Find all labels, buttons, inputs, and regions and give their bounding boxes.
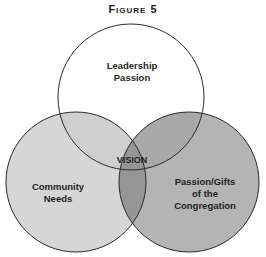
label-gifts-line2: of the <box>192 188 218 199</box>
venn-diagram: Leadership Passion Community Needs Passi… <box>0 0 266 257</box>
label-community-line2: Needs <box>44 193 73 204</box>
label-gifts-line1: Passion/Gifts <box>175 176 236 187</box>
label-community-line1: Community <box>32 181 85 192</box>
label-leadership-line1: Leadership <box>107 60 158 71</box>
label-vision: VISION <box>117 155 148 165</box>
label-leadership-line2: Passion <box>114 72 151 83</box>
label-gifts-line3: Congregation <box>174 200 236 211</box>
